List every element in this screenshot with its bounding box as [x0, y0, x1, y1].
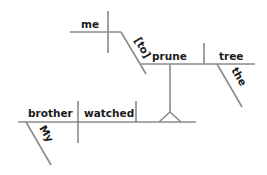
word-me: me [81, 18, 99, 30]
word-my: My [37, 123, 56, 144]
pedestal-base [159, 112, 181, 122]
word-prune: prune [152, 50, 187, 62]
word-brother: brother [28, 107, 74, 119]
word-tree: tree [219, 50, 243, 62]
sentence-diagram: me prune tree brother watched [to] the M… [0, 0, 267, 175]
word-watched: watched [84, 107, 134, 119]
word-the: the [229, 65, 249, 88]
